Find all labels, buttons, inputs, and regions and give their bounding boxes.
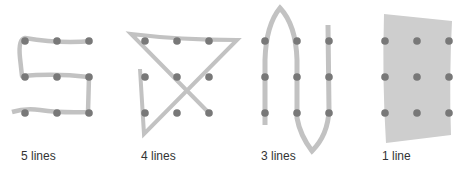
panel-4-lines (131, 34, 237, 134)
panel-label-3-lines: 3 lines (261, 149, 296, 163)
panel-label-1-line: 1 line (382, 149, 411, 163)
panel-5-lines (12, 37, 93, 117)
panel-3-lines (261, 8, 333, 151)
panel-label-5-lines: 5 lines (21, 149, 56, 163)
panel-label-4-lines: 4 lines (141, 149, 176, 163)
panel-1-line (381, 14, 453, 143)
solution-path-4-lines (131, 34, 237, 134)
